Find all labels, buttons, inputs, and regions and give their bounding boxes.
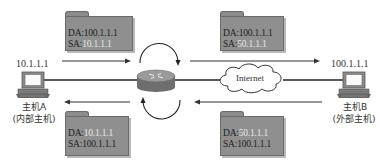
packet-bottom-right: DA:50.1.1.1 SA:100.1.1.1: [220, 111, 284, 156]
da-label: DA:: [223, 28, 239, 38]
arrow-icon: [190, 59, 320, 64]
destination-address: 100.1.1.1: [84, 28, 118, 38]
computer-icon: [337, 72, 371, 98]
arrow-icon: [64, 100, 130, 105]
host-a-ip: 10.1.1.1: [16, 58, 49, 69]
host-b-role: (外部主机): [320, 113, 380, 125]
destination-address: 10.1.1.1: [84, 128, 113, 138]
rotate-arrow-icon: [141, 97, 181, 119]
host-a-role: (内部主机): [0, 113, 68, 125]
router-icon: [137, 70, 175, 92]
sa-label: SA:: [68, 39, 82, 49]
packet-bottom-left: DA:10.1.1.1 SA:100.1.1.1: [65, 111, 129, 156]
source-address: 50.1.1.1: [237, 39, 266, 49]
source-address: 100.1.1.1: [82, 139, 116, 149]
da-label: DA:: [223, 128, 239, 138]
sa-label: SA:: [68, 139, 82, 149]
internet-label: Internet: [236, 73, 264, 83]
computer-icon: [16, 72, 50, 98]
host-b-name: 主机B: [325, 101, 380, 113]
packet-top-left: DA:100.1.1.1 SA:10.1.1.1: [65, 11, 133, 51]
packet-top-right: DA:100.1.1.1 SA:50.1.1.1: [220, 11, 284, 51]
host-b-ip: 100.1.1.1: [331, 58, 369, 69]
sa-label: SA:: [223, 39, 237, 49]
da-label: DA:: [68, 28, 84, 38]
destination-address: 50.1.1.1: [239, 128, 268, 138]
host-a-name: 主机A: [4, 101, 64, 113]
arrow-icon: [62, 59, 131, 64]
da-label: DA:: [68, 128, 84, 138]
source-address: 100.1.1.1: [237, 139, 271, 149]
arrow-icon: [194, 100, 322, 105]
source-address: 10.1.1.1: [82, 39, 111, 49]
sa-label: SA:: [223, 139, 237, 149]
destination-address: 100.1.1.1: [239, 28, 273, 38]
rotate-arrow-icon: [140, 44, 181, 66]
